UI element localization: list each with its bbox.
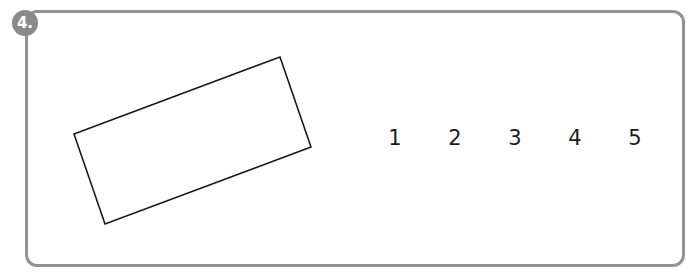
answer-choices: 1 2 3 4 5 bbox=[365, 126, 665, 150]
choice-1[interactable]: 1 bbox=[365, 126, 425, 150]
choice-3[interactable]: 3 bbox=[485, 126, 545, 150]
choice-4[interactable]: 4 bbox=[545, 126, 605, 150]
choice-5[interactable]: 5 bbox=[605, 126, 665, 150]
choice-2[interactable]: 2 bbox=[425, 126, 485, 150]
